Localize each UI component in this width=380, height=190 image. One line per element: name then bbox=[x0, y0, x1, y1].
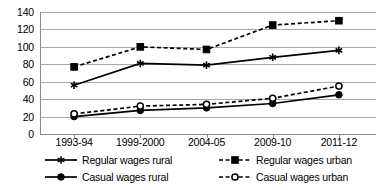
x-tick-mark-1993-94 bbox=[74, 134, 75, 138]
legend-label: Regular wages rural bbox=[82, 154, 172, 166]
legend-swatch-circle-open-icon bbox=[218, 171, 252, 183]
data-point-1993-94-77 bbox=[71, 64, 78, 71]
x-tick-mark-2004-05 bbox=[207, 134, 208, 138]
data-point-1999-2000-32 bbox=[137, 103, 143, 109]
plot-area: 020406080100120140 1993-941999-20002004-… bbox=[0, 0, 380, 150]
legend-item-casual-wages-urban[interactable]: Casual wages urban bbox=[218, 171, 348, 183]
x-tick-mark-1999-2000 bbox=[140, 134, 141, 138]
data-point-2011-12-130 bbox=[336, 17, 343, 24]
line-chart: 020406080100120140 1993-941999-20002004-… bbox=[0, 0, 380, 190]
legend-item-casual-wages-rural[interactable]: Casual wages rural bbox=[44, 171, 168, 183]
x-tick-mark-2011-12 bbox=[339, 134, 340, 138]
series-layer bbox=[0, 0, 380, 150]
data-point-1999-2000-100 bbox=[137, 44, 144, 51]
legend-label: Casual wages rural bbox=[82, 171, 168, 183]
legend-swatch-square-icon bbox=[218, 154, 252, 166]
legend-swatch-star-icon bbox=[44, 154, 78, 166]
x-axis-tick-labels: 1993-941999-20002004-052009-102011-12 bbox=[0, 136, 380, 152]
legend-item-regular-wages-rural[interactable]: Regular wages rural bbox=[44, 154, 172, 166]
x-tick-mark-2009-10 bbox=[273, 134, 274, 138]
data-point-2009-10-41 bbox=[270, 95, 276, 101]
legend-swatch-circle-icon bbox=[44, 171, 78, 183]
data-point-2004-05-97 bbox=[203, 46, 210, 53]
data-point-2011-12-45 bbox=[336, 91, 343, 98]
chart-legend: Regular wages ruralRegular wages urbanCa… bbox=[0, 152, 380, 190]
legend-item-regular-wages-urban[interactable]: Regular wages urban bbox=[218, 154, 352, 166]
data-point-2004-05-34 bbox=[203, 101, 209, 107]
data-point-2011-12-55 bbox=[336, 83, 342, 89]
data-point-1993-94-23 bbox=[71, 111, 77, 117]
legend-label: Casual wages urban bbox=[256, 171, 348, 183]
legend-label: Regular wages urban bbox=[256, 154, 352, 166]
data-point-2009-10-125 bbox=[269, 22, 276, 29]
